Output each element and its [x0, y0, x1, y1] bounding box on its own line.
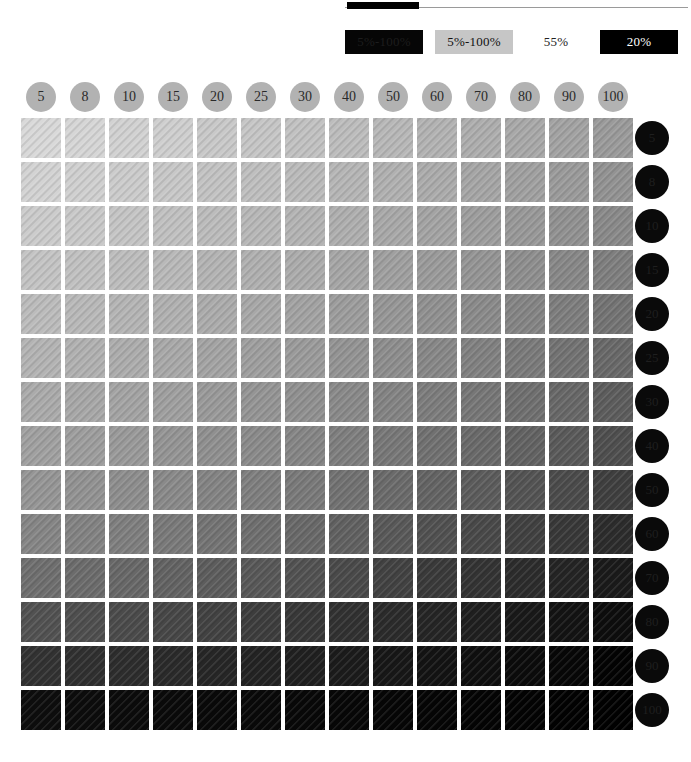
halftone-texture	[417, 646, 457, 686]
legend-item-label: 5%-100%	[447, 34, 500, 50]
column-header-label: 5	[38, 89, 45, 105]
halftone-texture	[197, 162, 237, 202]
tint-cell	[197, 470, 237, 510]
halftone-texture	[549, 250, 589, 290]
tint-cell	[153, 646, 193, 686]
halftone-texture	[153, 426, 193, 466]
halftone-texture	[65, 690, 105, 730]
tint-cell	[109, 514, 149, 554]
halftone-texture	[241, 250, 281, 290]
column-header-70: 70	[466, 82, 496, 112]
tint-cell	[285, 294, 325, 334]
tint-cell	[593, 206, 633, 246]
halftone-texture	[197, 294, 237, 334]
halftone-texture	[285, 646, 325, 686]
halftone-texture	[21, 382, 61, 422]
tint-cell	[65, 294, 105, 334]
halftone-texture	[593, 162, 633, 202]
halftone-texture	[65, 602, 105, 642]
halftone-texture	[21, 646, 61, 686]
halftone-texture	[65, 338, 105, 378]
tint-cell	[329, 426, 369, 466]
row-header-8: 8	[635, 165, 669, 199]
halftone-texture	[461, 338, 501, 378]
halftone-texture	[197, 646, 237, 686]
tint-cell	[65, 558, 105, 598]
halftone-texture	[549, 514, 589, 554]
tint-cell	[197, 162, 237, 202]
halftone-texture	[109, 294, 149, 334]
tint-cell	[417, 294, 457, 334]
tint-cell	[593, 426, 633, 466]
halftone-texture	[505, 690, 545, 730]
column-header-100: 100	[598, 82, 628, 112]
halftone-texture	[461, 646, 501, 686]
row-header-20: 20	[635, 297, 669, 331]
tint-cell	[65, 118, 105, 158]
tint-cell	[197, 250, 237, 290]
halftone-texture	[417, 250, 457, 290]
row-header-label: 40	[646, 438, 659, 454]
halftone-texture	[461, 470, 501, 510]
tint-cell	[241, 470, 281, 510]
tint-cell	[593, 294, 633, 334]
row-header-60: 60	[635, 517, 669, 551]
tint-cell	[65, 426, 105, 466]
halftone-texture	[373, 470, 413, 510]
tint-cell	[373, 514, 413, 554]
tint-cell	[417, 558, 457, 598]
halftone-texture	[417, 206, 457, 246]
tint-cell	[329, 294, 369, 334]
row-header-50: 50	[635, 473, 669, 507]
tint-cell	[329, 514, 369, 554]
tint-cell	[153, 118, 193, 158]
halftone-texture	[241, 382, 281, 422]
halftone-texture	[329, 558, 369, 598]
halftone-texture	[285, 514, 325, 554]
tint-cell	[593, 162, 633, 202]
halftone-texture	[153, 514, 193, 554]
halftone-texture	[549, 206, 589, 246]
halftone-texture	[241, 426, 281, 466]
tint-cell	[109, 294, 149, 334]
column-header-80: 80	[510, 82, 540, 112]
halftone-texture	[285, 338, 325, 378]
tint-cell	[461, 514, 501, 554]
legend-swatch-20: 20%	[600, 30, 678, 54]
halftone-texture	[153, 250, 193, 290]
tint-cell	[65, 514, 105, 554]
tint-cell	[417, 426, 457, 466]
tint-cell	[417, 206, 457, 246]
halftone-texture	[593, 646, 633, 686]
tint-cell	[505, 690, 545, 730]
halftone-texture	[241, 646, 281, 686]
halftone-texture	[373, 646, 413, 686]
tint-cell	[549, 690, 589, 730]
row-header-label: 50	[646, 482, 659, 498]
tint-cell	[285, 558, 325, 598]
tint-cell	[329, 250, 369, 290]
halftone-texture	[417, 470, 457, 510]
legend-item-label: 5%-100%	[357, 34, 410, 50]
tint-cell	[285, 162, 325, 202]
halftone-texture	[461, 250, 501, 290]
halftone-texture	[461, 558, 501, 598]
tint-cell	[505, 206, 545, 246]
row-header-label: 10	[646, 218, 659, 234]
row-header-70: 70	[635, 561, 669, 595]
row-header-25: 25	[635, 341, 669, 375]
row-header-label: 20	[646, 306, 659, 322]
halftone-texture	[373, 382, 413, 422]
column-header-25: 25	[246, 82, 276, 112]
halftone-texture	[153, 646, 193, 686]
tint-cell	[373, 118, 413, 158]
tint-cell	[417, 338, 457, 378]
tint-cell	[505, 118, 545, 158]
tint-cell	[21, 118, 61, 158]
tint-cell	[549, 514, 589, 554]
halftone-texture	[549, 602, 589, 642]
halftone-texture	[197, 690, 237, 730]
tint-cell	[549, 294, 589, 334]
tint-cell	[417, 514, 457, 554]
halftone-texture	[109, 558, 149, 598]
